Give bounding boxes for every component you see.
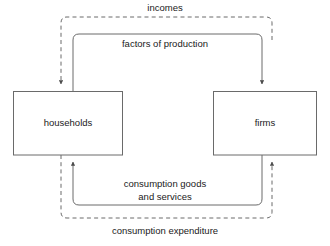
flow-path-incomes [61,17,272,84]
flow-label-consumption-goods-and-services: consumption goods and services [105,178,225,203]
node-label-households: households [13,117,123,129]
flow-label-factors-of-production: factors of production [105,38,225,51]
node-label-firms: firms [213,117,317,129]
circular-flow-diagram: households firms incomes factors of prod… [0,0,330,246]
flow-label-consumption-expenditure: consumption expenditure [85,225,245,238]
flow-label-line-1: consumption goods [105,178,225,191]
flow-label-line-2: and services [105,191,225,204]
flow-label-incomes: incomes [105,2,225,15]
